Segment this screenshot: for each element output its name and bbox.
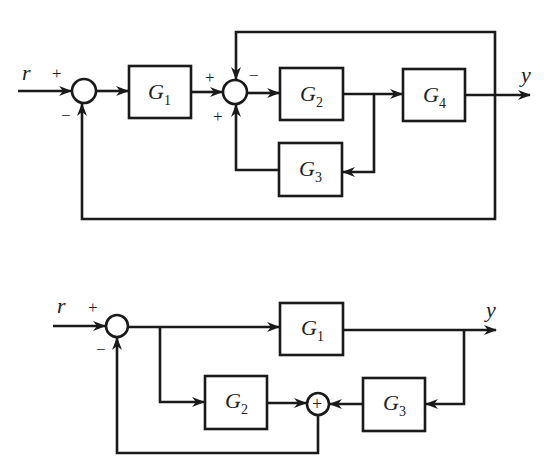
output-label: y [484, 297, 496, 322]
sum2-plus-left-sign: + [205, 68, 215, 87]
sum1-minus-sign: − [61, 106, 71, 125]
input-label: r [57, 293, 66, 318]
arrow-g3-to-sum2 [236, 105, 279, 170]
sum2-plus-bottom-sign: + [213, 107, 223, 126]
summing-junction-1 [106, 315, 128, 337]
arrow-branch-to-g3 [426, 330, 464, 404]
block-diagrams: r + − G1 + − + G2 G4 y G3 [0, 0, 559, 469]
summing-junction-1 [72, 79, 96, 103]
input-label: r [22, 60, 31, 85]
output-label: y [519, 62, 531, 87]
sum1-plus-sign: + [88, 298, 98, 317]
arrow-branch-to-g2 [160, 327, 204, 402]
sum2-plus-symbol: + [312, 394, 322, 414]
sum1-minus-sign: − [96, 340, 106, 359]
diagram-2: r + − G1 y G3 G2 + [53, 293, 496, 453]
diagram-1: r + − G1 + − + G2 G4 y G3 [18, 32, 531, 219]
summing-junction-2 [223, 80, 247, 104]
sum1-plus-sign: + [52, 64, 62, 83]
sum2-minus-top-sign: − [249, 66, 259, 85]
arrow-branch-to-g3 [343, 94, 374, 172]
